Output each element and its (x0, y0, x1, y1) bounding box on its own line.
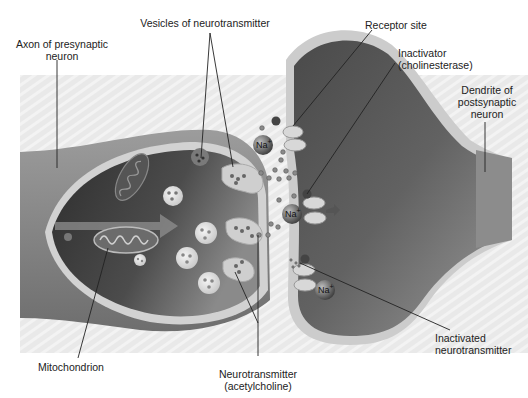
vesicle-icon (191, 148, 209, 166)
vesicle-icon (195, 222, 217, 244)
mitochondrion-icon (94, 227, 158, 253)
label-mitochondrion: Mitochondrion (38, 361, 104, 373)
label-inactivator: Inactivator(cholinesterase) (398, 47, 473, 71)
vesicle-icon (198, 272, 220, 294)
label-vesicles: Vesicles of neurotransmitter (130, 17, 280, 29)
vesicle-icon (163, 186, 183, 206)
vesicle-small-icon (64, 233, 72, 241)
sodium-ion-icon: Na+ (315, 280, 335, 300)
dendrite-shaft (476, 150, 512, 248)
label-receptor-site: Receptor site (365, 19, 427, 31)
label-inactivated-neurotransmitter: Inactivatedneurotransmitter (435, 332, 511, 356)
sodium-ion-icon: Na+ (253, 135, 273, 155)
vesicle-icon (176, 247, 198, 269)
vesicle-icon (134, 254, 146, 266)
label-axon: Axon of presynapticneuron (14, 38, 110, 62)
sodium-ion-icon: Na+ (282, 204, 302, 224)
label-neurotransmitter: Neurotransmitter(acetylcholine) (200, 368, 316, 392)
synapse-diagram: Na+ Na+ Na+ Axon of presynapticneuron V (0, 0, 528, 398)
label-dendrite: Dendrite ofpostsynapticneuron (452, 84, 522, 120)
